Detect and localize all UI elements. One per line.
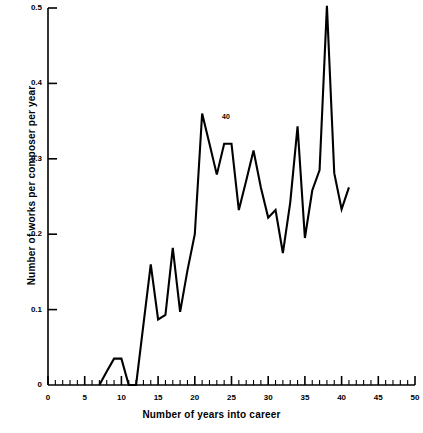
x-axis-title: Number of years into career bbox=[0, 409, 423, 420]
x-tick-label: 25 bbox=[217, 394, 247, 402]
x-tick-label: 5 bbox=[70, 394, 100, 402]
x-tick-label: 35 bbox=[290, 394, 320, 402]
axis-lines bbox=[48, 8, 415, 385]
y-axis-title: Number of works per composer per year bbox=[26, 56, 37, 316]
y-axis-ticks bbox=[48, 8, 57, 310]
y-tick-label: 0 bbox=[8, 381, 42, 389]
x-tick-label: 10 bbox=[106, 394, 136, 402]
x-tick-label: 40 bbox=[327, 394, 357, 402]
x-tick-label: 0 bbox=[33, 394, 63, 402]
x-tick-label: 50 bbox=[400, 394, 423, 402]
y-tick-label: 0.5 bbox=[8, 4, 42, 12]
x-tick-label: 20 bbox=[180, 394, 210, 402]
chart-container: 00.10.20.30.40.5 05101520253035404550 40… bbox=[0, 0, 423, 433]
x-tick-label: 15 bbox=[143, 394, 173, 402]
annotation-label-40: 40 bbox=[222, 113, 230, 120]
x-tick-label: 30 bbox=[253, 394, 283, 402]
data-series-line bbox=[99, 6, 349, 385]
chart-plot-area bbox=[0, 0, 423, 433]
x-tick-label: 45 bbox=[363, 394, 393, 402]
